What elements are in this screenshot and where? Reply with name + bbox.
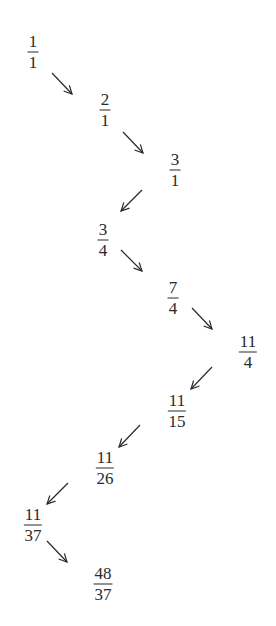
numerator: 48: [94, 565, 113, 585]
arrow-down-left-icon: [47, 483, 68, 504]
numerator: 2: [100, 91, 111, 111]
denominator: 1: [29, 53, 38, 72]
denominator: 15: [169, 412, 186, 431]
denominator: 4: [169, 299, 178, 318]
numerator: 11: [24, 506, 42, 526]
denominator: 26: [97, 469, 114, 488]
denominator: 1: [101, 111, 110, 130]
denominator: 37: [25, 526, 42, 545]
arrow-down-left-icon: [119, 425, 140, 447]
fraction-node-4: 3 4: [98, 221, 109, 260]
arrow-down-right-icon: [121, 250, 142, 271]
fraction-node-1: 1 1: [28, 33, 39, 72]
arrow-down-right-icon: [192, 308, 212, 329]
numerator: 11: [168, 392, 186, 412]
arrow-down-right-icon: [47, 541, 67, 562]
numerator: 7: [168, 279, 179, 299]
denominator: 1: [171, 171, 180, 190]
numerator: 3: [170, 151, 181, 171]
denominator: 4: [244, 353, 253, 372]
denominator: 4: [99, 241, 108, 260]
numerator: 11: [96, 449, 114, 469]
arrow-down-right-icon: [123, 132, 143, 153]
numerator: 1: [28, 33, 39, 53]
fraction-node-10: 48 37: [94, 565, 113, 604]
fraction-node-6: 11 4: [239, 333, 257, 372]
denominator: 37: [95, 585, 112, 604]
fraction-node-2: 2 1: [100, 91, 111, 130]
fraction-node-7: 11 15: [168, 392, 186, 431]
fraction-node-9: 11 37: [24, 506, 42, 545]
arrow-down-right-icon: [52, 73, 72, 94]
arrow-down-left-icon: [121, 190, 142, 211]
numerator: 3: [98, 221, 109, 241]
numerator: 11: [239, 333, 257, 353]
fraction-node-5: 7 4: [168, 279, 179, 318]
fraction-node-3: 3 1: [170, 151, 181, 190]
arrow-down-left-icon: [191, 367, 212, 389]
fraction-node-8: 11 26: [96, 449, 114, 488]
